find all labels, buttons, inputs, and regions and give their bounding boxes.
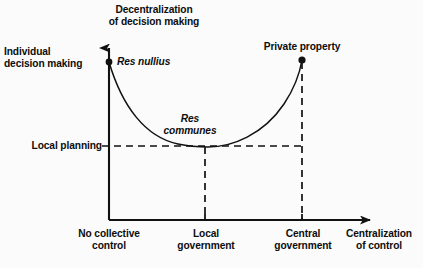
axis-label-individual-decision-making: Individual decision making xyxy=(4,46,106,70)
x-axis-tick-label-local-government: Local government xyxy=(151,228,261,252)
point-private-property-marker xyxy=(298,56,305,63)
point-label-private-property: Private property xyxy=(246,41,358,53)
x-axis-title-centralization-of-control: Centralization of control xyxy=(336,228,422,252)
point-label-res-nullius: Res nullius xyxy=(117,56,170,68)
axis-title-decentralization: Decentralization of decision making xyxy=(64,4,244,28)
point-res-nullius-marker xyxy=(106,59,113,66)
y-axis-tick-label-local-planning: Local planning xyxy=(12,140,102,152)
diagram-canvas: Decentralization of decision making Indi… xyxy=(0,0,423,268)
point-label-res-communes: Res communes xyxy=(152,113,228,137)
